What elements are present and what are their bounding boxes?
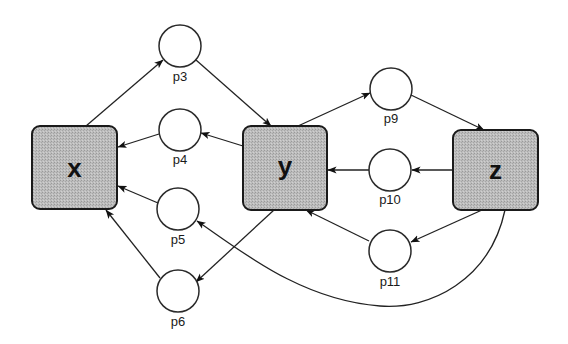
place-p5: p5	[157, 188, 199, 247]
arc-p11-y	[306, 210, 369, 241]
transition-y-label: y	[278, 151, 293, 181]
place-p9-label: p9	[384, 111, 398, 126]
transition-y: y	[243, 126, 327, 210]
transition-x-label: x	[67, 153, 82, 183]
place-p4: p4	[159, 109, 201, 167]
arc-p4-x	[118, 134, 159, 147]
transition-z-label: z	[489, 155, 502, 185]
place-p6-label: p6	[171, 314, 185, 329]
place-p6: p6	[157, 270, 199, 329]
arc-p6-x	[106, 210, 160, 278]
place-p9: p9	[370, 68, 412, 126]
arc-p5-x	[118, 186, 158, 203]
arc-x-p3	[86, 60, 163, 126]
arc-y-p9	[298, 93, 370, 126]
petri-net-diagram: x y z p3 p4 p5 p6 p9 p10 p11	[0, 0, 568, 344]
transition-x: x	[32, 126, 117, 209]
arc-p9-z	[411, 95, 484, 130]
place-p5-label: p5	[171, 232, 185, 247]
place-p11: p11	[369, 230, 411, 289]
arc-y-p4	[201, 133, 243, 146]
arc-y-p6	[196, 210, 274, 282]
place-p10: p10	[369, 149, 411, 207]
transition-z: z	[453, 130, 538, 210]
arc-z-p11	[411, 210, 482, 242]
place-p3: p3	[159, 25, 201, 84]
place-p3-label: p3	[173, 69, 187, 84]
arc-p3-y	[196, 60, 271, 126]
place-p11-label: p11	[380, 274, 401, 289]
place-p10-label: p10	[379, 192, 401, 207]
arc-z-p5-curved	[197, 210, 505, 306]
place-p4-label: p4	[173, 152, 187, 167]
